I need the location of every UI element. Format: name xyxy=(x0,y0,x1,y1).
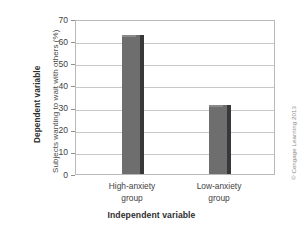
copyright-notice: © Cengage Learning 2013 xyxy=(290,106,297,180)
y-axis-tick-label: 0 xyxy=(12,171,68,180)
gridline xyxy=(76,65,274,66)
x-axis-category-label: High-anxietygroup xyxy=(87,181,177,204)
x-axis-category-label-line: group xyxy=(87,193,177,205)
y-axis-tick xyxy=(71,175,75,176)
plot-area xyxy=(75,20,275,175)
gridlines xyxy=(76,21,274,174)
y-axis-tick-label: 10 xyxy=(12,148,68,157)
bar-shadow-edge xyxy=(227,105,231,174)
bar-top-highlight xyxy=(122,35,136,37)
x-axis-category-label-line: High-anxiety xyxy=(87,181,177,193)
independent-variable-label: Independent variable xyxy=(0,210,303,220)
x-axis-category-label: Low-anxietygroup xyxy=(174,181,264,204)
gridline xyxy=(76,110,274,111)
y-axis-tick-label: 40 xyxy=(12,82,68,91)
y-axis-tick-label: 20 xyxy=(12,126,68,135)
bar-top-highlight xyxy=(209,105,223,107)
y-axis-tick-label: 70 xyxy=(12,16,68,25)
bar-fill xyxy=(122,35,140,175)
gridline xyxy=(76,43,274,44)
y-axis-tick-label: 30 xyxy=(12,104,68,113)
gridline xyxy=(76,87,274,88)
x-axis-category-label-line: group xyxy=(174,193,264,205)
gridline xyxy=(76,132,274,133)
y-axis-tick-label: 60 xyxy=(12,38,68,47)
bar xyxy=(122,35,144,175)
bar xyxy=(209,105,231,174)
bar-chart-figure: Dependent variable Subjects wanting to w… xyxy=(0,0,303,235)
bar-fill xyxy=(209,105,227,174)
bar-shadow-edge xyxy=(140,35,144,175)
gridline xyxy=(76,154,274,155)
y-axis-tick-label: 50 xyxy=(12,60,68,69)
x-axis-category-label-line: Low-anxiety xyxy=(174,181,264,193)
